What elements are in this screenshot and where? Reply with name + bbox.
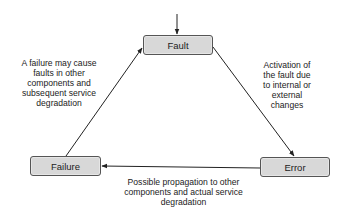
error-to-failure-arrow	[102, 166, 260, 168]
error-to-failure-label: Possible propagation to other components…	[116, 177, 251, 207]
failure-to-fault-label: A failure may cause faults in other comp…	[12, 58, 106, 108]
label-line: Possible propagation to other	[116, 177, 251, 187]
fault-error-failure-diagram: Fault Failure Error A failure may cause …	[0, 0, 345, 217]
node-failure: Failure	[30, 156, 101, 176]
label-line: A failure may cause	[12, 58, 106, 68]
node-fault: Fault	[143, 35, 213, 55]
label-line: degradation	[12, 98, 106, 108]
node-error-label: Error	[284, 162, 305, 173]
fault-to-error-label: Activation of the fault due to internal …	[252, 60, 322, 110]
label-line: external	[252, 90, 322, 100]
label-line: components and actual service	[116, 187, 251, 197]
label-line: to internal or	[252, 80, 322, 90]
label-line: changes	[252, 100, 322, 110]
node-failure-label: Failure	[51, 161, 80, 172]
node-fault-label: Fault	[167, 40, 188, 51]
label-line: faults in other	[12, 68, 106, 78]
label-line: degradation	[116, 197, 251, 207]
label-line: subsequent service	[12, 88, 106, 98]
label-line: the fault due	[252, 70, 322, 80]
label-line: Activation of	[252, 60, 322, 70]
node-error: Error	[260, 157, 330, 177]
label-line: components and	[12, 78, 106, 88]
